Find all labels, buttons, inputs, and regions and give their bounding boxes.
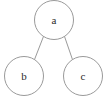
node-c[interactable]: c xyxy=(64,57,103,96)
node-b-label: b xyxy=(21,70,27,82)
edge-a-to-b xyxy=(35,36,44,59)
node-b[interactable]: b xyxy=(5,57,44,96)
edge-a-to-c xyxy=(65,36,73,59)
graph-canvas: a b c xyxy=(0,0,108,100)
node-c-label: c xyxy=(81,70,86,82)
node-a-label: a xyxy=(52,14,57,26)
node-a[interactable]: a xyxy=(35,1,74,40)
graph-diagram: a b c xyxy=(0,0,108,100)
